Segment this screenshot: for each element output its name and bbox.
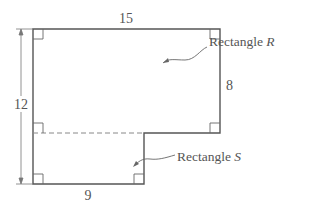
- rectangle-r-variable: R: [265, 34, 275, 49]
- leader-line-s: [134, 155, 175, 166]
- top-width-label: 15: [119, 11, 133, 26]
- leader-line-r: [163, 47, 207, 63]
- right-height-label: 8: [226, 78, 233, 93]
- rectangle-s-label: Rectangle S: [177, 149, 241, 164]
- rectangle-s-prefix: Rectangle: [177, 149, 234, 164]
- rectangle-s-variable: S: [234, 149, 241, 164]
- rectangle-r-prefix: Rectangle: [209, 34, 266, 49]
- bottom-width-label: 9: [85, 188, 92, 203]
- composite-figure-diagram: 15 12 8 9 Rectangle R Rectangle S: [0, 0, 327, 208]
- total-height-label: 12: [14, 97, 28, 112]
- rectangle-r-label: Rectangle R: [209, 34, 275, 49]
- leader-arrow-r: [163, 58, 169, 63]
